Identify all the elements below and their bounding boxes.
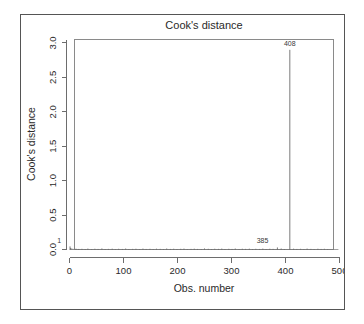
y-tick-label: 0.0: [47, 243, 58, 256]
y-tick-label: 1.5: [47, 140, 58, 153]
x-tick-labels: 0100200300400500: [67, 265, 344, 276]
cooks-distance-plot: 0.00.51.01.52.02.53.0 0100200300400500 4…: [21, 15, 344, 309]
point-label-1: 1: [57, 237, 61, 244]
y-tick-labels: 0.00.51.01.52.02.53.0: [47, 36, 58, 256]
data-series-stems: [70, 50, 339, 250]
y-axis: [62, 40, 67, 250]
y-tick-label: 0.5: [47, 208, 58, 221]
x-tick-label: 300: [224, 265, 240, 276]
y-tick-label: 3.0: [47, 36, 58, 49]
point-label-408: 408: [284, 40, 296, 47]
y-tick-label: 2.5: [47, 71, 58, 84]
point-annotations: 4083851: [57, 40, 296, 245]
y-axis-title: Cook's distance: [25, 107, 37, 181]
plot-title: Cook's distance: [165, 19, 242, 31]
x-tick-label: 100: [116, 265, 132, 276]
y-tick-label: 1.0: [47, 174, 58, 187]
x-tick-label: 400: [278, 265, 294, 276]
figure-frame: 0.00.51.01.52.02.53.0 0100200300400500 4…: [20, 14, 345, 310]
y-tick-label: 2.0: [47, 105, 58, 118]
x-tick-label: 500: [332, 265, 344, 276]
x-tick-label: 200: [170, 265, 186, 276]
plot-panel-box: [75, 40, 334, 250]
x-axis-title: Obs. number: [174, 282, 235, 294]
x-tick-label: 0: [67, 265, 72, 276]
point-label-385: 385: [257, 237, 269, 244]
x-axis: [70, 258, 340, 263]
